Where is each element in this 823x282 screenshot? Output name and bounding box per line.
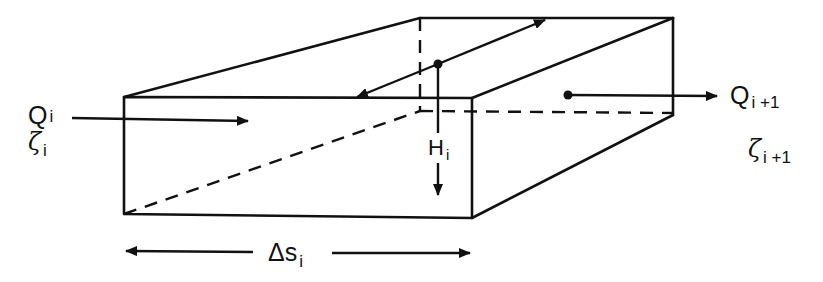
outflow-symbol: Q bbox=[730, 81, 749, 109]
outflow-subscript: i +1 bbox=[751, 93, 779, 112]
outflow-stage-label: ζi +1 bbox=[748, 137, 791, 161]
inflow-label: Qi bbox=[28, 103, 53, 128]
length-subscript: i bbox=[299, 252, 303, 271]
right-bottom-edge bbox=[472, 115, 673, 218]
inflow-stage-label: ζi bbox=[28, 130, 47, 154]
outflow-label: Qi +1 bbox=[730, 83, 779, 108]
hidden-back-bottom-edge bbox=[420, 111, 673, 113]
inflow-arrow bbox=[72, 118, 248, 121]
top-surface-arrow-back bbox=[357, 64, 438, 97]
outflow-stage-subscript: i +1 bbox=[763, 148, 791, 167]
depth-symbol: H bbox=[428, 135, 444, 160]
inflow-stage-symbol: ζ bbox=[28, 128, 41, 156]
top-left-edge bbox=[124, 18, 420, 97]
inflow-stage-subscript: i bbox=[43, 141, 47, 160]
length-label: Δsi bbox=[268, 240, 303, 265]
hidden-diagonal-edge bbox=[124, 111, 420, 214]
outflow-arrow bbox=[568, 95, 717, 96]
surface-point-dot bbox=[434, 60, 443, 69]
inflow-symbol: Q bbox=[28, 101, 47, 129]
depth-subscript: i bbox=[446, 146, 449, 163]
depth-label: Hi bbox=[428, 137, 449, 159]
length-symbol: Δs bbox=[268, 238, 297, 266]
outflow-stage-symbol: ζ bbox=[748, 135, 761, 163]
top-right-edge bbox=[472, 18, 673, 98]
outflow-point-dot bbox=[564, 91, 573, 100]
length-arrow-left bbox=[126, 251, 253, 252]
top-surface-arrow-forward bbox=[438, 20, 545, 64]
inflow-subscript: i bbox=[49, 107, 53, 126]
control-volume-diagram bbox=[0, 0, 823, 282]
front-face bbox=[124, 97, 472, 218]
